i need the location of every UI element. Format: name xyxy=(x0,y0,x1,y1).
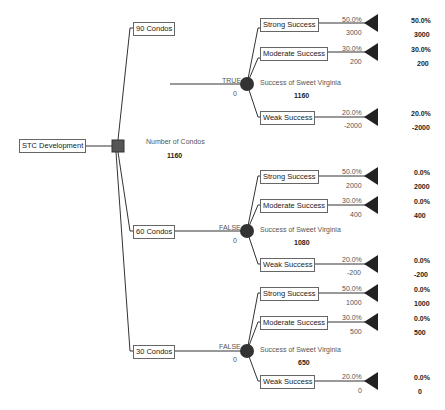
outcome-label[interactable]: Moderate Success xyxy=(260,47,328,61)
result-prob: 0.0% xyxy=(414,285,430,294)
branch-label[interactable]: 90 Condos xyxy=(133,22,175,36)
branch-flag: TRUE xyxy=(222,76,241,85)
outcome-label[interactable]: Strong Success xyxy=(260,170,319,184)
outcome-prob: 20.0% xyxy=(342,108,362,117)
chance-label: Success of Sweet Virginia xyxy=(260,225,341,234)
result-value: 500 xyxy=(414,328,426,337)
outcome-value: 0 xyxy=(358,386,362,395)
outcome-prob: 50.0% xyxy=(342,15,362,24)
chance-node[interactable] xyxy=(240,224,254,238)
result-value: 0 xyxy=(418,387,422,396)
result-value: -200 xyxy=(414,270,428,279)
outcome-value: -2000 xyxy=(344,121,362,130)
outcome-label[interactable]: Weak Success xyxy=(260,375,315,389)
outcome-value: 400 xyxy=(350,210,362,219)
outcome-label[interactable]: Moderate Success xyxy=(260,199,328,213)
outcome-value: 500 xyxy=(350,327,362,336)
branch-label[interactable]: 30 Condos xyxy=(133,345,175,359)
outcome-label[interactable]: Weak Success xyxy=(260,111,315,125)
result-prob: 0.0% xyxy=(414,373,430,382)
branch-cost: 0 xyxy=(233,355,237,364)
outcome-prob: 20.0% xyxy=(342,372,362,381)
outcome-prob: 50.0% xyxy=(342,284,362,293)
result-prob: 20.0% xyxy=(411,109,431,118)
outcome-prob: 30.0% xyxy=(342,196,362,205)
result-value: 400 xyxy=(414,211,426,220)
outcome-value: 1000 xyxy=(346,298,362,307)
result-prob: 0.0% xyxy=(414,256,430,265)
result-value: 2000 xyxy=(414,182,430,191)
result-prob: 0.0% xyxy=(414,314,430,323)
chance-label: Success of Sweet Virginia xyxy=(260,345,341,354)
branch-flag: FALSE xyxy=(219,223,241,232)
branch-cost: 0 xyxy=(233,236,237,245)
branch-label[interactable]: 60 Condos xyxy=(133,225,175,239)
outcome-prob: 30.0% xyxy=(342,313,362,322)
outcome-label[interactable]: Weak Success xyxy=(260,258,315,272)
result-prob: 0.0% xyxy=(414,168,430,177)
root-node-label[interactable]: STC Development xyxy=(19,139,86,153)
outcome-value: -200 xyxy=(347,268,361,277)
decision-node[interactable] xyxy=(112,140,124,152)
result-prob: 0.0% xyxy=(414,197,430,206)
result-value: -2000 xyxy=(412,123,430,132)
outcome-label[interactable]: Strong Success xyxy=(260,18,319,32)
result-prob: 30.0% xyxy=(411,45,431,54)
decision-node-label: Number of Condos xyxy=(146,137,205,146)
chance-value: 1160 xyxy=(294,91,309,100)
chance-node[interactable] xyxy=(240,77,254,91)
outcome-prob: 20.0% xyxy=(342,255,362,264)
outcome-value: 200 xyxy=(350,57,362,66)
result-value: 3000 xyxy=(414,30,430,39)
result-value: 1000 xyxy=(414,299,430,308)
outcome-value: 3000 xyxy=(346,28,362,37)
chance-node[interactable] xyxy=(240,344,254,358)
chance-value: 1080 xyxy=(294,238,310,247)
result-prob: 50.0% xyxy=(411,16,431,25)
decision-node-value: 1160 xyxy=(167,151,182,160)
branch-flag: FALSE xyxy=(219,342,241,351)
outcome-label[interactable]: Moderate Success xyxy=(260,316,328,330)
outcome-prob: 30.0% xyxy=(342,44,362,53)
result-value: 200 xyxy=(417,59,429,68)
chance-value: 650 xyxy=(298,358,310,367)
outcome-prob: 50.0% xyxy=(342,167,362,176)
chance-label: Success of Sweet Virginia xyxy=(260,78,341,87)
outcome-value: 2000 xyxy=(346,181,362,190)
outcome-label[interactable]: Strong Success xyxy=(260,287,319,301)
branch-cost: 0 xyxy=(233,89,237,98)
